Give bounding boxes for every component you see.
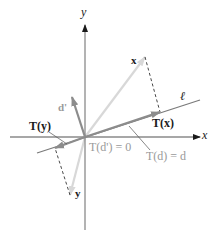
y-axis-label: y [81,6,86,18]
projection-dash-x [145,57,160,112]
vector-x-label: x [131,55,137,66]
vector-d-prime-label: d' [58,102,67,113]
projection-dash-y [55,148,70,195]
T-d-prime-label: T(d') = 0 [89,141,131,153]
leader-T-y [49,132,67,144]
projection-diagram: y x ℓ x y d' T(x) T(y) T(d') = 0 T(d) = … [0,0,216,235]
vector-d-prime [72,97,85,137]
T-d-label: T(d) = d [146,150,186,162]
T-y-label: T(y) [29,120,51,132]
diagram-canvas [0,0,216,235]
vector-T-x [85,112,160,137]
line-l-label: ℓ [180,90,185,102]
x-axis-label: x [202,129,207,141]
vector-y-label: y [75,188,81,199]
leader-T-d [129,126,150,150]
T-x-label: T(x) [152,117,174,129]
vector-x [85,57,145,137]
